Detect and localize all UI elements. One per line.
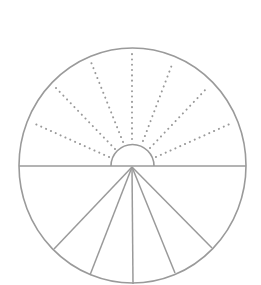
inner-semicircle — [111, 145, 154, 167]
circle-diagram — [0, 0, 261, 285]
dotted-rays-group — [33, 54, 232, 157]
dotted-ray-1 — [33, 123, 109, 157]
solid-ray-3 — [132, 167, 133, 284]
solid-ray-1 — [54, 167, 132, 249]
dotted-ray-7 — [156, 123, 232, 157]
solid-ray-5 — [132, 167, 212, 248]
solid-rays-group — [54, 167, 212, 284]
solid-ray-4 — [132, 167, 175, 273]
solid-ray-2 — [90, 167, 132, 275]
dotted-ray-2 — [56, 88, 115, 149]
dotted-ray-6 — [150, 87, 208, 148]
